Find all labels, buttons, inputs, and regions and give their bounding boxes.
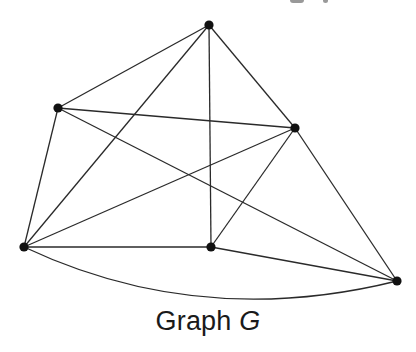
edge-MB-BR: [211, 247, 397, 281]
vertex-BR: [392, 276, 401, 285]
edge-T-MB: [209, 25, 211, 247]
edge-T-UL: [58, 25, 209, 108]
vertex-R: [290, 123, 299, 132]
graph-diagram: [0, 0, 416, 352]
graph-edges: [24, 25, 397, 299]
caption-variable: G: [239, 306, 260, 336]
edge-R-BL: [24, 128, 295, 247]
edge-BL-BR: [24, 247, 397, 299]
vertex-BL: [19, 242, 28, 251]
vertex-UL: [53, 103, 62, 112]
edge-T-R: [209, 25, 295, 128]
vertex-MB: [206, 242, 215, 251]
edge-R-BR: [295, 128, 397, 281]
caption-prefix: Graph: [156, 306, 240, 336]
edge-UL-BR: [58, 108, 397, 281]
figure-caption: Graph G: [0, 306, 416, 337]
edge-UL-R: [58, 108, 295, 128]
vertex-T: [204, 20, 213, 29]
